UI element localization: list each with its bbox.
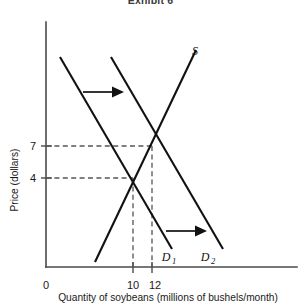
demand-curve-D2-label-subscript: 2 — [211, 256, 216, 266]
demand-curve-D2 — [111, 57, 223, 249]
x-tick-label-10: 10 — [127, 279, 139, 291]
demand-curve-D2-label: D 2 — [200, 250, 216, 266]
x-tick-label-0: 0 — [43, 279, 49, 291]
supply-curve-label: S — [192, 44, 198, 58]
x-axis-title: Quantity of soybeans (millions of bushel… — [58, 292, 278, 303]
guide-lines-group — [46, 146, 152, 267]
demand-curve-D1-label: D 1 — [161, 250, 176, 266]
y-tick-label-7: 7 — [30, 140, 36, 152]
demand-shift-arrow-lower — [166, 226, 207, 237]
y-tick-label-4: 4 — [30, 172, 36, 184]
shift-arrows-group — [83, 87, 207, 237]
y-axis-title: Price (dollars) — [9, 149, 20, 212]
demand-curve-D1-label-subscript: 1 — [172, 256, 176, 266]
supply-demand-plot: 7 4 0 10 12 S D 1 D 2 Price (dollars) Qu… — [0, 0, 301, 303]
demand-shift-arrow-upper — [83, 87, 124, 98]
chart-container: Exhibit 6 — [0, 0, 301, 303]
demand-curve-D2-label-text: D — [200, 250, 210, 264]
x-tick-label-12: 12 — [149, 279, 161, 291]
demand-curve-D1-label-text: D — [161, 250, 171, 264]
